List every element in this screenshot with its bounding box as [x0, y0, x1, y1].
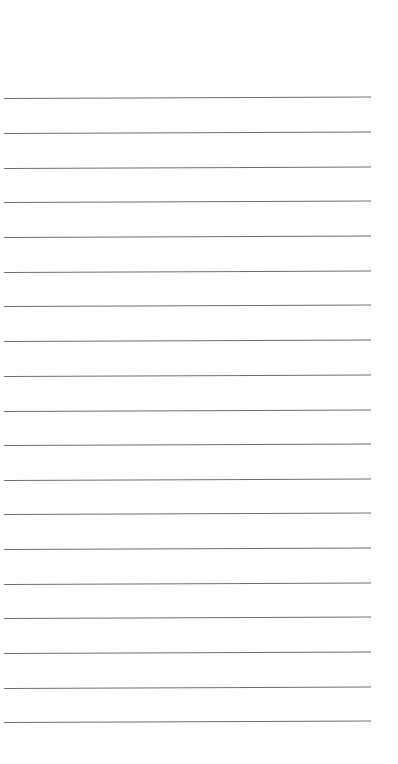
ruled-line: [4, 478, 371, 481]
ruled-line: [4, 166, 371, 169]
ruled-line: [4, 96, 371, 99]
ruled-line: [4, 686, 371, 689]
ruled-line: [4, 443, 371, 446]
ruled-line: [4, 374, 371, 377]
ruled-line: [4, 339, 371, 342]
ruled-line: [4, 304, 371, 307]
ruled-line: [4, 547, 371, 550]
ruled-line: [4, 200, 371, 203]
ruled-line: [4, 235, 371, 238]
ruled-line: [4, 651, 371, 654]
ruled-line: [4, 720, 371, 723]
ruled-line: [4, 270, 371, 273]
ruled-line: [4, 582, 371, 585]
ruled-line: [4, 131, 371, 134]
ruled-line: [4, 409, 371, 412]
lined-paper-page: [0, 0, 398, 764]
ruled-line: [4, 616, 371, 619]
ruled-line: [4, 512, 371, 515]
